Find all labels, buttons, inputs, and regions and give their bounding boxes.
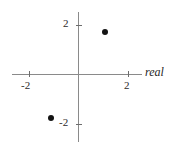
tick-label-imaginary-negative-2: -2 [59, 117, 68, 128]
real-axis-line [12, 74, 142, 75]
tick-mark-imaginary-positive-2 [76, 25, 82, 26]
tick-mark-imaginary-negative-2 [76, 124, 82, 125]
tick-label-real-positive-2: 2 [124, 80, 130, 91]
tick-mark-real-negative-2 [29, 71, 30, 77]
tick-label-imaginary-positive-2: 2 [63, 18, 69, 29]
data-point [102, 29, 108, 35]
real-axis-label: real [145, 66, 164, 78]
imaginary-axis-line [78, 12, 79, 142]
tick-label-real-negative-2: -2 [21, 80, 30, 91]
data-point [48, 115, 54, 121]
complex-plane-plot: -2 2 2 -2 real [0, 0, 174, 148]
tick-mark-real-positive-2 [128, 71, 129, 77]
